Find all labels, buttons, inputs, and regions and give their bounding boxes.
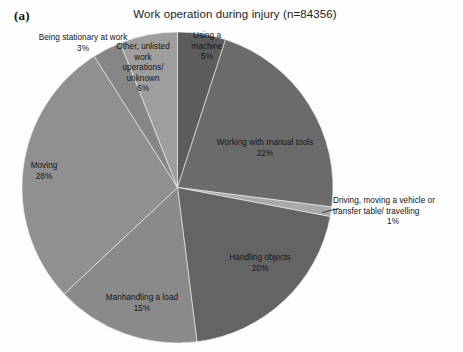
- slice-label-text-2: machine: [191, 42, 222, 51]
- slice-label-manhandling-a-load: Manhandling a load 15%: [82, 293, 202, 314]
- slice-label-handling-objects: Handling objects 20%: [205, 253, 315, 274]
- slice-label-text: Manhandling a load: [106, 293, 178, 302]
- slice-label-text-2: transfer table/ travelling: [333, 207, 419, 216]
- slice-label-text: Being stationary at work: [39, 33, 128, 42]
- slice-label-text: Moving: [31, 161, 58, 170]
- slice-label-working-with-manual-tools: Working with manual tools 22%: [190, 138, 340, 159]
- slice-label-percent: 6%: [107, 84, 179, 95]
- slice-label-text: Using a: [193, 31, 221, 40]
- slice-label-using-a-machine: Using a machine 5%: [178, 31, 236, 63]
- slice-label-text: Working with manual tools: [217, 138, 314, 147]
- slice-label-text-3: operations/: [122, 63, 163, 72]
- slice-label-text: Handling objects: [229, 253, 290, 262]
- slice-label-driving-moving-a-vehicle: Driving, moving a vehicle or transfer ta…: [333, 196, 461, 228]
- slice-label-text-4: unknown: [126, 74, 159, 83]
- slice-label-percent: 20%: [205, 264, 315, 275]
- slice-label-text: Other, unlisted: [116, 42, 170, 51]
- slice-label-percent: 5%: [178, 52, 236, 63]
- slice-label-text-2: work: [134, 53, 152, 62]
- chart-screenshot: (a) Work operation during injury (n=8435…: [0, 0, 463, 352]
- slice-label-moving: Moving 28%: [14, 161, 74, 182]
- slice-label-percent: 1%: [333, 217, 453, 228]
- slice-label-text: Driving, moving a vehicle or: [333, 196, 435, 205]
- slice-label-percent: 15%: [82, 304, 202, 315]
- slice-label-percent: 22%: [190, 149, 340, 160]
- slice-label-percent: 28%: [14, 172, 74, 183]
- slice-label-other-unlisted: Other, unlisted work operations/ unknown…: [107, 42, 179, 95]
